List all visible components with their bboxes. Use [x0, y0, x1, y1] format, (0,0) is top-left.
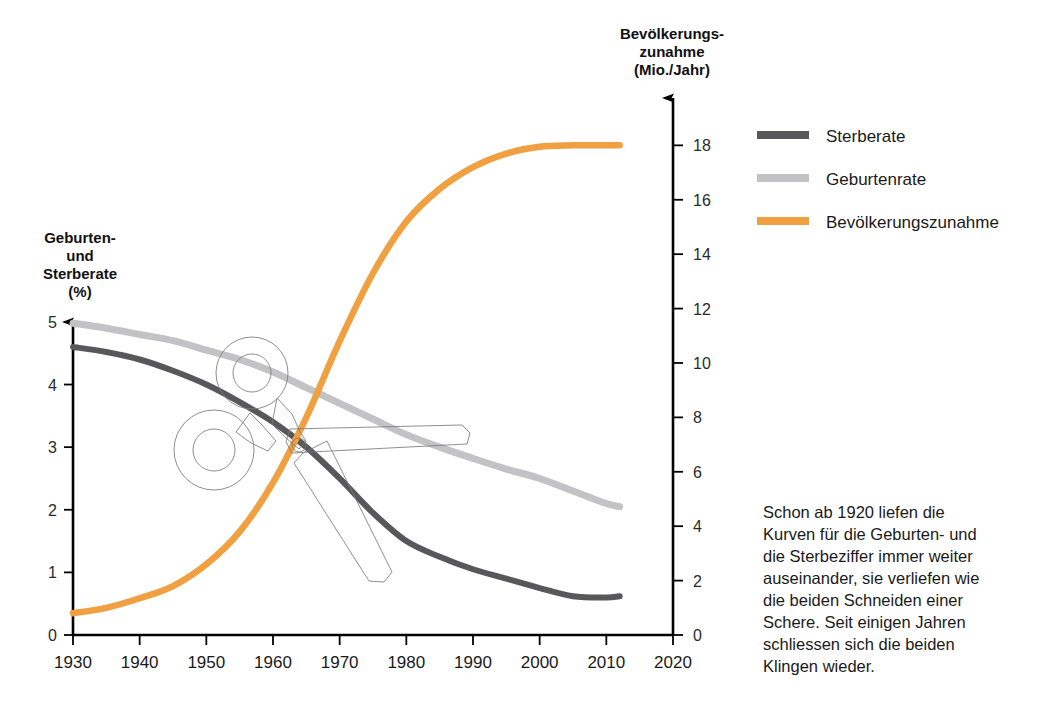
right-axis-title-line3: (Mio./Jahr)	[634, 61, 710, 78]
x-tick-label-2010: 2010	[587, 653, 625, 672]
x-tick-label-1980: 1980	[387, 653, 425, 672]
chart-legend: SterberateGeburtenrateBevölkerungszunahm…	[757, 127, 999, 232]
right-tick-label-16: 16	[693, 192, 711, 209]
x-tick-label-2020: 2020	[654, 653, 692, 672]
left-tick-label-4: 4	[48, 377, 57, 394]
right-tick-label-14: 14	[693, 246, 711, 263]
scissors-blade-lower	[294, 441, 392, 582]
left-tick-label-3: 3	[48, 439, 57, 456]
caption-line-4: die beiden Schneiden einer	[763, 591, 963, 609]
series-line-bevölkerungszunahme	[73, 145, 620, 613]
left-tick-label-2: 2	[48, 502, 57, 519]
right-tick-label-10: 10	[693, 355, 711, 372]
right-tick-label-0: 0	[693, 627, 702, 644]
caption-line-7: Klingen wieder.	[763, 657, 875, 675]
right-tick-label-4: 4	[693, 518, 702, 535]
right-tick-label-8: 8	[693, 409, 702, 426]
caption-line-2: die Sterbeziffer immer weiter	[763, 547, 973, 565]
caption-line-3: auseinander, sie verliefen wie	[763, 569, 979, 587]
left-axis-title-line1: Geburten-	[44, 229, 116, 246]
left-axis-title-line4: (%)	[68, 283, 91, 300]
caption-text: Schon ab 1920 liefen dieKurven für die G…	[763, 503, 979, 675]
right-axis-title-line2: zunahme	[639, 43, 704, 60]
x-axis-ticks: 1930194019501960197019801990200020102020	[54, 635, 692, 672]
legend-swatch-0	[757, 131, 809, 139]
legend-swatch-2	[757, 217, 809, 225]
caption-line-5: Schere. Seit einigen Jahren	[763, 613, 966, 631]
x-tick-label-1950: 1950	[187, 653, 225, 672]
right-tick-label-6: 6	[693, 464, 702, 481]
legend-label-2: Bevölkerungszunahme	[826, 213, 999, 232]
left-axis-title-line3: Sterberate	[43, 265, 117, 282]
caption-line-1: Kurven für die Geburten- und	[763, 525, 977, 543]
left-tick-label-1: 1	[48, 564, 57, 581]
legend-label-0: Sterberate	[826, 127, 905, 146]
x-tick-label-2000: 2000	[521, 653, 559, 672]
left-axis-title-line2: und	[66, 247, 94, 264]
caption-line-0: Schon ab 1920 liefen die	[763, 503, 945, 521]
right-axis-title: Bevölkerungs- zunahme (Mio./Jahr)	[620, 25, 724, 78]
x-tick-label-1930: 1930	[54, 653, 92, 672]
series-layer	[73, 145, 620, 613]
x-tick-label-1960: 1960	[254, 653, 292, 672]
population-chart-figure: Geburten- und Sterberate (%) Bevölkerung…	[0, 0, 1055, 707]
right-tick-label-12: 12	[693, 301, 711, 318]
left-tick-label-5: 5	[48, 314, 57, 331]
scissors-ring-upper-inner	[233, 354, 271, 392]
x-tick-label-1990: 1990	[454, 653, 492, 672]
legend-swatch-1	[757, 174, 809, 182]
caption-line-6: schliessen sich die beiden	[763, 635, 955, 653]
series-line-sterberate	[73, 347, 620, 597]
right-tick-label-18: 18	[693, 137, 711, 154]
left-axis-title: Geburten- und Sterberate (%)	[43, 229, 117, 300]
legend-label-1: Geburtenrate	[826, 170, 926, 189]
left-axis-ticks: 012345	[48, 314, 73, 644]
x-tick-label-1940: 1940	[121, 653, 159, 672]
right-axis-title-line1: Bevölkerungs-	[620, 25, 724, 42]
left-tick-label-0: 0	[48, 627, 57, 644]
x-tick-label-1970: 1970	[321, 653, 359, 672]
scissors-ring-lower-inner	[193, 429, 235, 471]
right-tick-label-2: 2	[693, 573, 702, 590]
scissors-ring-lower-outer	[174, 410, 254, 490]
right-axis-ticks: 024681012141618	[673, 137, 711, 644]
